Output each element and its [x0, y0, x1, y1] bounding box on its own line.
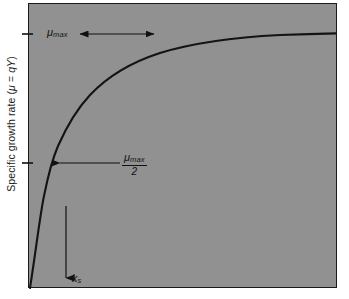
mu-max-half-subscript: max	[130, 155, 144, 164]
y-axis-title-prefix: Specific growth rate (	[5, 91, 17, 192]
ks-subscript: s	[78, 276, 82, 285]
chart-canvas	[0, 0, 349, 299]
mu-max-half-denominator: 2	[122, 166, 147, 177]
y-axis-title-equals: =	[5, 73, 17, 85]
y-axis-title-mu: μ	[5, 85, 17, 91]
annotation-ks: ks	[72, 272, 81, 285]
y-axis-title: Specific growth rate (μ = qY)	[5, 29, 17, 219]
y-axis-title-Y: Y	[5, 60, 17, 67]
annotation-mu-max-half: μmax 2	[122, 152, 147, 177]
annotation-mu-max: μmax	[47, 26, 68, 39]
monod-growth-chart-figure: Specific growth rate (μ = qY) μmax μmax …	[0, 0, 349, 299]
y-axis-title-suffix: )	[5, 56, 17, 60]
y-axis-title-q: q	[5, 67, 17, 73]
mu-max-subscript: max	[53, 30, 67, 39]
monod-curve	[30, 33, 336, 288]
mu-max-half-numerator: μmax	[122, 152, 147, 166]
